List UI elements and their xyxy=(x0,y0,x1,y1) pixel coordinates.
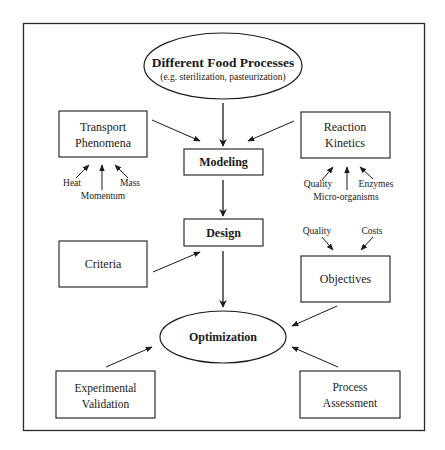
node-design: Design xyxy=(184,219,263,246)
node-reaction-kinetics: Reaction Kinetics xyxy=(301,112,390,158)
arrow-kinetics-to-modeling xyxy=(248,121,294,141)
input-momentum: Momentum xyxy=(81,191,126,201)
node-label-line2: Kinetics xyxy=(325,136,365,150)
node-criteria: Criteria xyxy=(59,241,147,287)
node-process-assessment: Process Assessment xyxy=(300,371,400,418)
node-label-line2: Phenomena xyxy=(75,136,132,150)
input-quality-kinetics: Quality xyxy=(304,179,333,189)
node-transport-phenomena: Transport Phenomena xyxy=(59,111,147,157)
node-experimental-validation: Experimental Validation xyxy=(56,371,155,418)
arrow-transport-to-modeling xyxy=(152,120,200,141)
food-process-optimization-diagram: Different Food Processes (e.g. steriliza… xyxy=(0,0,445,450)
input-enzymes: Enzymes xyxy=(359,179,394,189)
node-optimization: Optimization xyxy=(160,311,286,363)
input-micro-organisms: Micro-organisms xyxy=(313,192,379,202)
arrow-enzymes-to-kinetics xyxy=(360,167,373,179)
node-label-line1: Process xyxy=(332,381,368,393)
arrow-quality-to-objectives xyxy=(322,237,333,250)
arrow-costs-to-objectives xyxy=(361,237,373,250)
input-heat: Heat xyxy=(63,178,81,188)
input-costs: Costs xyxy=(361,226,382,236)
node-label: Optimization xyxy=(189,330,257,344)
node-label-line1: Experimental xyxy=(75,382,137,395)
arrow-objectives-to-optimization xyxy=(292,306,337,326)
node-modeling: Modeling xyxy=(184,149,263,175)
node-label-line2: Validation xyxy=(82,398,130,410)
arrow-criteria-to-design xyxy=(153,252,200,272)
node-label: Criteria xyxy=(85,257,122,271)
node-label: Modeling xyxy=(199,155,248,169)
arrow-process-to-optimization xyxy=(292,347,338,367)
arrow-mass-to-transport xyxy=(115,165,128,178)
input-mass: Mass xyxy=(120,178,140,188)
node-label-line1: Reaction xyxy=(324,120,367,134)
node-label: Objectives xyxy=(320,272,372,286)
arrow-experimental-to-optimization xyxy=(106,347,152,367)
node-label: Design xyxy=(206,226,241,240)
node-different-food-processes: Different Food Processes (e.g. steriliza… xyxy=(144,33,302,99)
node-subtitle: (e.g. sterilization, pasteurization) xyxy=(160,72,285,83)
node-objectives: Objectives xyxy=(301,256,390,302)
node-label-line2: Assessment xyxy=(323,397,378,409)
node-title: Different Food Processes xyxy=(152,55,295,70)
node-label-line1: Transport xyxy=(80,120,127,134)
arrow-heat-to-transport xyxy=(76,165,89,178)
input-quality-objectives: Quality xyxy=(303,226,332,236)
